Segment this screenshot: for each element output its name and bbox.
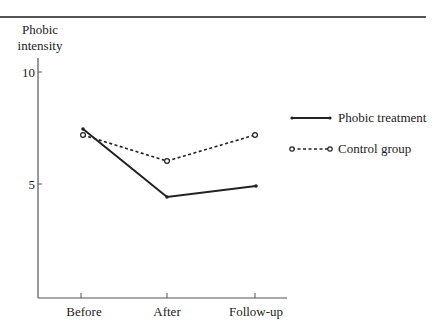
y-tick-label-10: 10 — [22, 65, 35, 80]
series-phobic-treatment-line — [83, 129, 256, 197]
legend-item-control-group: Control group — [338, 141, 411, 157]
x-tick-label-after: After — [153, 304, 181, 319]
x-tick-label-followup: Follow-up — [229, 304, 283, 319]
legend-treatment-marker-left — [290, 116, 293, 119]
y-tick-label-5: 5 — [29, 177, 36, 192]
x-tick-label-before: Before — [66, 304, 102, 319]
control-marker-before — [81, 133, 86, 138]
control-marker-followup — [253, 133, 258, 138]
treatment-marker-after — [165, 195, 169, 199]
series-control-group-line — [83, 135, 255, 161]
treatment-marker-followup — [254, 184, 258, 188]
legend-control-marker-right — [328, 147, 332, 151]
legend-item-phobic-treatment: Phobic treatment — [338, 110, 426, 126]
treatment-marker-before — [81, 127, 85, 131]
legend-control-marker-left — [290, 147, 294, 151]
control-marker-after — [165, 159, 170, 164]
legend-treatment-marker-right — [328, 116, 331, 119]
line-chart: 10 5 Before After Follow-up — [0, 0, 442, 334]
